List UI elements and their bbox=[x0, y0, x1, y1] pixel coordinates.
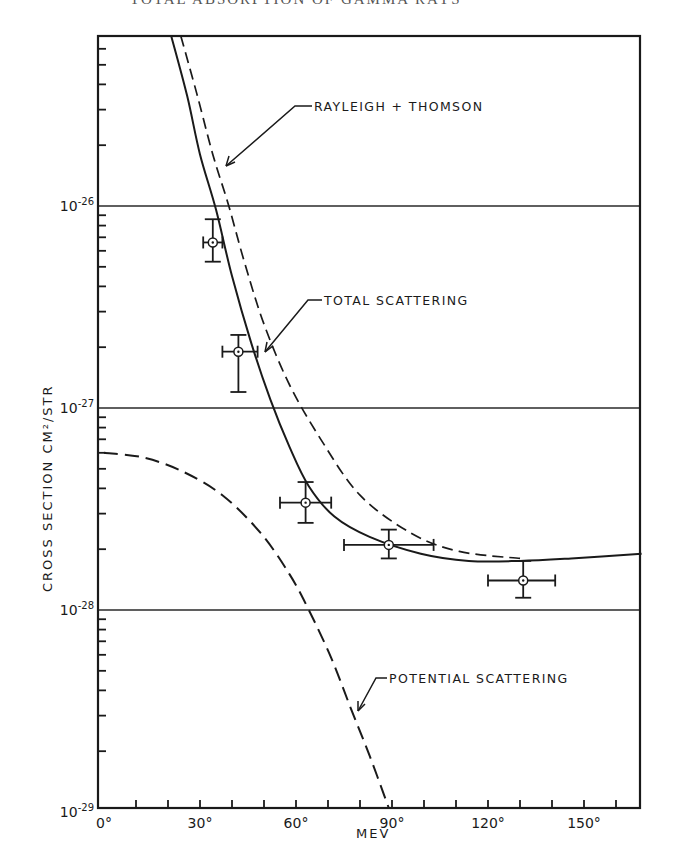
curves-layer bbox=[104, 36, 642, 808]
x-axis-ticks bbox=[136, 800, 616, 808]
data-point bbox=[488, 561, 555, 598]
y-tick-label: 10-27 bbox=[60, 398, 94, 416]
annotations-layer: RAYLEIGH + THOMSON TOTAL SCATTERING POTE… bbox=[226, 99, 569, 711]
decade-gridlines bbox=[98, 206, 640, 610]
x-tick-label: 120° bbox=[471, 815, 505, 831]
x-tick-label: 0° bbox=[96, 815, 112, 831]
x-axis-label: MEV bbox=[356, 826, 390, 841]
y-tick-label: 10-29 bbox=[60, 802, 94, 820]
data-point bbox=[280, 482, 331, 523]
x-tick-label: 60° bbox=[284, 815, 309, 831]
y-tick-label: 10-26 bbox=[60, 196, 94, 214]
y-axis-label: CROSS SECTION CM²/STR bbox=[40, 385, 55, 593]
y-minor-ticks bbox=[98, 49, 106, 751]
total-scattering-label: TOTAL SCATTERING bbox=[323, 293, 469, 308]
rayleigh-thomson-label: RAYLEIGH + THOMSON bbox=[314, 99, 483, 114]
rayleigh-leader-arrow bbox=[226, 106, 312, 166]
x-tick-label: 150° bbox=[567, 815, 601, 831]
potential-scattering-curve bbox=[104, 453, 389, 808]
cross-section-chart: 10-2610-2710-2810-290°30°60°90°120°150° … bbox=[0, 0, 674, 860]
y-tick-label: 10-28 bbox=[60, 600, 94, 618]
total-leader-arrow bbox=[265, 300, 322, 352]
x-tick-label: 30° bbox=[188, 815, 213, 831]
potential-scattering-label: POTENTIAL SCATTERING bbox=[389, 671, 569, 686]
